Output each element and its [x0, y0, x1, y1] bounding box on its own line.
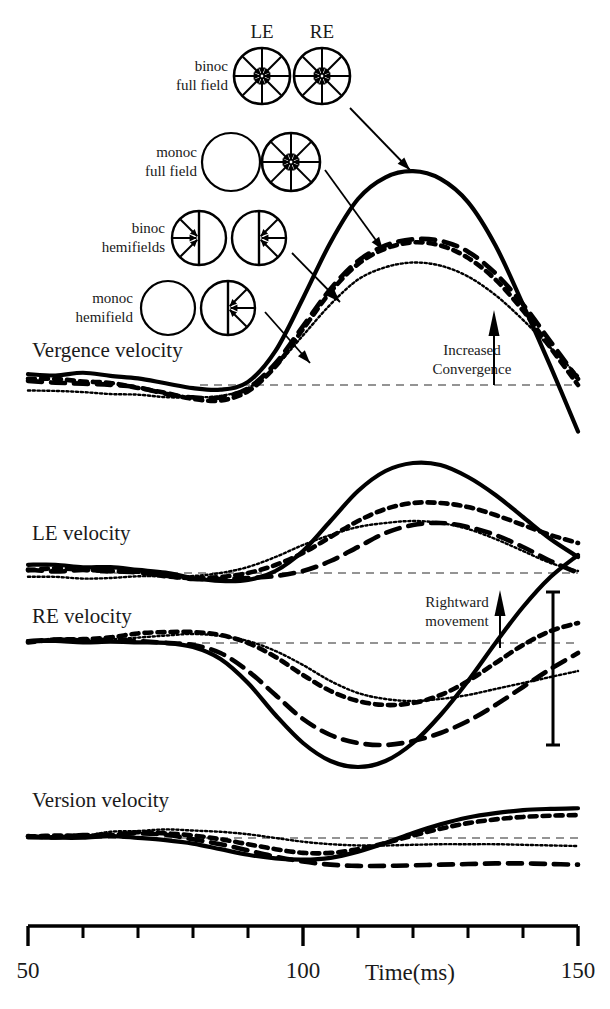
axis-tick-label-100: 100: [286, 958, 321, 983]
legend-label2-monoc-full-field: full field: [145, 163, 198, 179]
axis-tick-label-50: 50: [17, 958, 40, 983]
legend-label2-binoc-full-field: full field: [176, 77, 229, 93]
re-icon-binoc-hemifields: [232, 211, 286, 265]
le-icon-binoc-hemifields: [172, 211, 226, 265]
panel-label-vergence: Vergence velocity: [32, 338, 183, 362]
re-icon-binoc-full-field: [294, 48, 350, 104]
le-icon-monoc-hemifield: [141, 281, 195, 335]
trace-re-dashed: [28, 640, 578, 745]
le-icon-monoc-full-field: [202, 133, 260, 191]
annotation-rightward-line1: Rightward: [425, 594, 489, 610]
time-axis: 50100150Time(ms): [17, 926, 596, 985]
trace-version-dotted-thick: [28, 815, 578, 853]
leader-binoc-full-field: [350, 108, 410, 170]
legend: [141, 48, 350, 335]
axis-tick-label-150: 150: [561, 958, 596, 983]
legend-label-monoc-hemifield: monoc: [92, 290, 133, 306]
eye-header-re: RE: [310, 21, 334, 42]
legend-label-monoc-full-field: monoc: [156, 144, 197, 160]
legend-label2-binoc-hemifields: hemifields: [102, 239, 165, 255]
re-icon-monoc-hemifield: [201, 281, 255, 335]
re-icon-monoc-full-field: [262, 133, 320, 191]
panel-label-version: Version velocity: [32, 788, 170, 812]
legend-label-binoc-hemifields: binoc: [132, 220, 166, 236]
vertical-scale-bar: [546, 592, 560, 745]
legend-label-binoc-full-field: binoc: [195, 58, 229, 74]
figure-canvas: LEREbinocfull fieldmonocfull fieldbinoch…: [0, 0, 610, 1009]
panel-version: [28, 808, 578, 866]
panel-label-le: LE velocity: [32, 521, 131, 545]
figure-root: LEREbinocfull fieldmonocfull fieldbinoch…: [0, 0, 610, 1009]
legend-label2-monoc-hemifield: hemifield: [76, 309, 134, 325]
axis-title: Time(ms): [365, 960, 455, 985]
annotation-increased-line1: Increased: [443, 342, 501, 358]
eye-header-le: LE: [250, 21, 273, 42]
le-icon-binoc-full-field: [234, 48, 290, 104]
annotation-increased-line2: Convergence: [433, 361, 512, 377]
annotation-rightward-line2: movement: [425, 613, 489, 629]
panel-re: [28, 555, 578, 767]
panel-label-re: RE velocity: [32, 604, 132, 628]
leader-binoc-hemifields: [292, 253, 340, 302]
